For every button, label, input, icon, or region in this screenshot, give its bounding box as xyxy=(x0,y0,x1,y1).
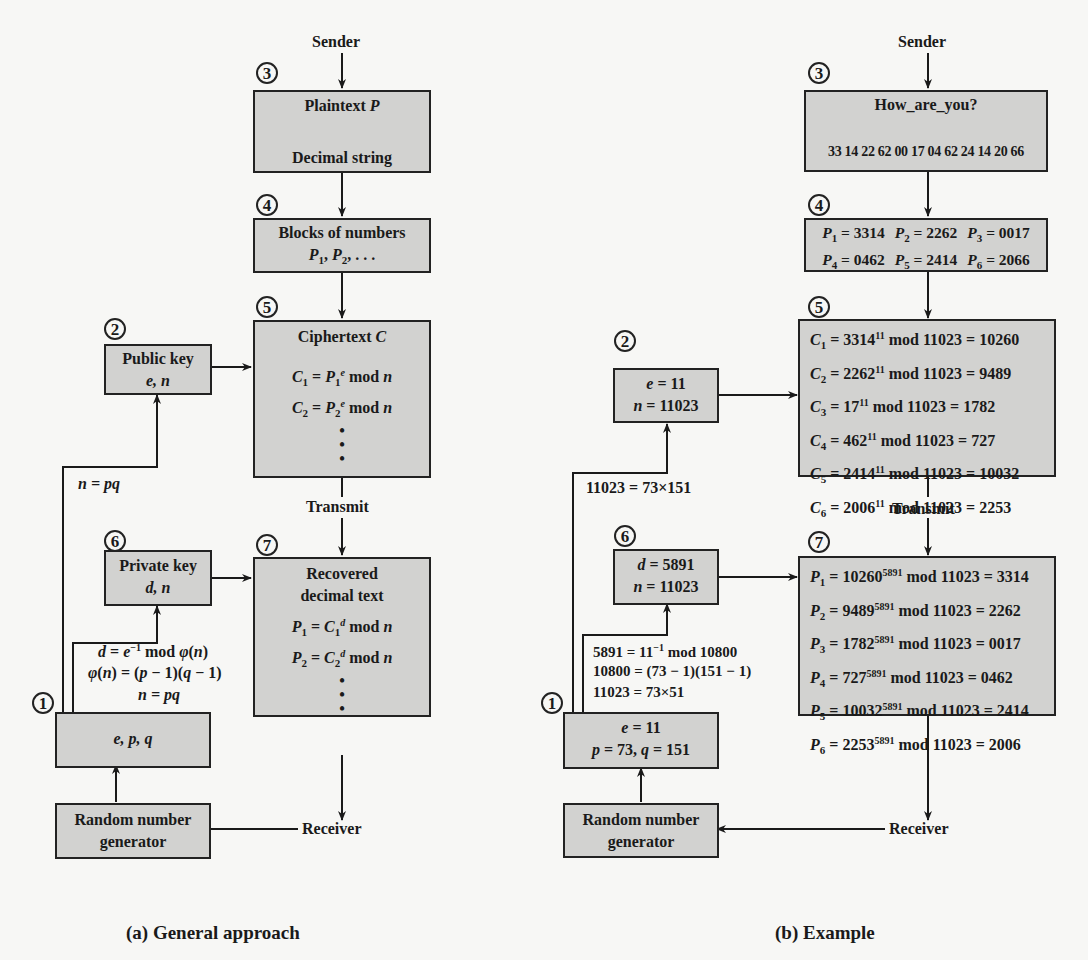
step-4-badge-b: 4 xyxy=(808,194,830,216)
recovered-box-a: Recovered decimal text P1 = C1d mod n P2… xyxy=(253,557,431,717)
cipher-line-1: C1 = P1e mod n xyxy=(255,362,429,393)
step-3-badge-b: 3 xyxy=(808,62,830,84)
block-value: P1 = 3314 xyxy=(822,224,885,241)
n-eq-pq-label: n = pq xyxy=(78,475,120,493)
step-5-badge-b: 5 xyxy=(808,296,830,318)
equation-row: P5 = 100325891 mod 11023 = 2414 xyxy=(810,695,1054,729)
private-key-title: Private key xyxy=(106,555,210,577)
decimal-string-label: Decimal string xyxy=(255,147,429,169)
step-7-badge-b: 7 xyxy=(808,531,830,553)
public-key-box-a: Public key e, n xyxy=(104,344,212,395)
blocks-list: P1 = 3314P2 = 2262P3 = 0017P4 = 0462P5 =… xyxy=(806,220,1046,276)
equation-row: P1 = 102605891 mod 11023 = 3314 xyxy=(810,561,1054,595)
step-3-badge-a: 3 xyxy=(256,62,278,84)
receiver-label-b: Receiver xyxy=(889,820,949,838)
ellipsis-dots: ••• xyxy=(255,674,429,716)
private-key-vars: d, n xyxy=(146,579,171,596)
block-value: P4 = 0462 xyxy=(822,251,885,268)
equation-row: P4 = 7275891 mod 11023 = 0462 xyxy=(810,662,1054,696)
derivation-line-2-b: 10800 = (73 − 1)(151 − 1) xyxy=(593,663,751,680)
step-5-badge-a: 5 xyxy=(256,296,278,318)
sender-label-a: Sender xyxy=(312,33,360,51)
ellipsis-dots: ••• xyxy=(255,424,429,466)
rng-box-a: Random number generator xyxy=(55,803,211,859)
transmit-label-b: Transmit xyxy=(892,500,955,518)
message-box-b: How_are_you? 33 14 22 62 00 17 04 62 24 … xyxy=(804,90,1048,172)
equation-row: C5 = 241411 mod 11023 = 10032 xyxy=(810,458,1054,492)
ciphertext-box-a: Ciphertext C C1 = P1e mod n C2 = P2e mod… xyxy=(253,320,431,478)
private-key-box-b: d = 5891 n = 11023 xyxy=(613,549,719,605)
public-key-box-b: e = 11 n = 11023 xyxy=(613,368,719,423)
step-2-badge-a: 2 xyxy=(104,318,126,340)
equation-row: C2 = 226211 mod 11023 = 9489 xyxy=(810,358,1054,392)
recovered-line-2: P2 = C2d mod n xyxy=(255,643,429,674)
rng-line-1-b: Random number xyxy=(565,809,717,831)
derivation-line-3-b: 11023 = 73×51 xyxy=(593,684,684,701)
params-box-a: e, p, q xyxy=(55,712,211,768)
derivation-line-2-a: φ(n) = (p − 1)(q − 1) xyxy=(88,664,222,682)
cipher-line-2: C2 = P2e mod n xyxy=(255,393,429,424)
equation-row: P2 = 94895891 mod 11023 = 2262 xyxy=(810,595,1054,629)
step-2-badge-b: 2 xyxy=(614,330,636,352)
transmit-label-a: Transmit xyxy=(306,498,369,516)
step-7-badge-a: 7 xyxy=(256,534,278,556)
private-key-box-a: Private key d, n xyxy=(104,550,212,606)
blocks-vars: P1, P2, . . . xyxy=(255,244,429,271)
rng-line-1: Random number xyxy=(57,809,209,831)
recovered-title-2: decimal text xyxy=(255,585,429,607)
n-factorization-label: 11023 = 73×151 xyxy=(586,479,691,497)
public-key-vars: e, n xyxy=(146,372,170,389)
block-value: P6 = 2066 xyxy=(967,251,1030,268)
rng-box-b: Random number generator xyxy=(563,803,719,858)
sender-label-b: Sender xyxy=(898,33,946,51)
message-text: How_are_you? xyxy=(806,94,1046,116)
equation-row: C1 = 331411 mod 11023 = 10260 xyxy=(810,324,1054,358)
step-4-badge-a: 4 xyxy=(256,194,278,216)
plaintext-title: Plaintext xyxy=(304,97,365,114)
char-codes: 33 14 22 62 00 17 04 62 24 14 20 66 xyxy=(806,141,1046,163)
receiver-label-a: Receiver xyxy=(302,820,362,838)
rng-line-2-b: generator xyxy=(565,831,717,853)
block-value: P5 = 2414 xyxy=(895,251,958,268)
derivation-line-1-a: d = e−1 mod φ(n) xyxy=(98,642,208,661)
cipher-var: C xyxy=(376,328,387,345)
derivation-line-1-b: 5891 = 11−1 mod 10800 xyxy=(593,642,737,661)
step-1-badge-a: 1 xyxy=(32,692,54,714)
rng-line-2: generator xyxy=(57,831,209,853)
cipher-list: C1 = 331411 mod 11023 = 10260C2 = 226211… xyxy=(800,321,1054,525)
recovered-box-b: P1 = 102605891 mod 11023 = 3314P2 = 9489… xyxy=(798,556,1056,716)
step-1-badge-b: 1 xyxy=(541,692,563,714)
equation-row: C3 = 1711 mod 11023 = 1782 xyxy=(810,391,1054,425)
public-key-title: Public key xyxy=(106,348,210,370)
recovered-title-1: Recovered xyxy=(255,563,429,585)
caption-a: (a) General approach xyxy=(126,922,300,944)
caption-b: (b) Example xyxy=(775,922,875,944)
blocks-box-a: Blocks of numbers P1, P2, . . . xyxy=(253,218,431,273)
ciphertext-box-b: C1 = 331411 mod 11023 = 10260C2 = 226211… xyxy=(798,319,1056,477)
block-value: P2 = 2262 xyxy=(895,224,958,241)
step-6-badge-b: 6 xyxy=(614,525,636,547)
blocks-title: Blocks of numbers xyxy=(255,222,429,244)
params-vars: e, p, q xyxy=(113,730,152,747)
equation-row: C4 = 46211 mod 11023 = 727 xyxy=(810,425,1054,459)
derivation-line-3-a: n = pq xyxy=(138,686,180,704)
equation-row: P6 = 22535891 mod 11023 = 2006 xyxy=(810,729,1054,763)
step-6-badge-a: 6 xyxy=(104,530,126,552)
params-box-b: e = 11 p = 73, q = 151 xyxy=(563,712,719,769)
recovered-line-1: P1 = C1d mod n xyxy=(255,612,429,643)
blocks-box-b: P1 = 3314P2 = 2262P3 = 0017P4 = 0462P5 =… xyxy=(804,218,1048,272)
block-value: P3 = 0017 xyxy=(967,224,1030,241)
plaintext-var: P xyxy=(370,97,380,114)
plaintext-box-a: Plaintext P Decimal string xyxy=(253,90,431,173)
equation-row: P3 = 17825891 mod 11023 = 0017 xyxy=(810,628,1054,662)
recovered-list: P1 = 102605891 mod 11023 = 3314P2 = 9489… xyxy=(800,558,1054,762)
cipher-title: Ciphertext xyxy=(298,328,372,345)
